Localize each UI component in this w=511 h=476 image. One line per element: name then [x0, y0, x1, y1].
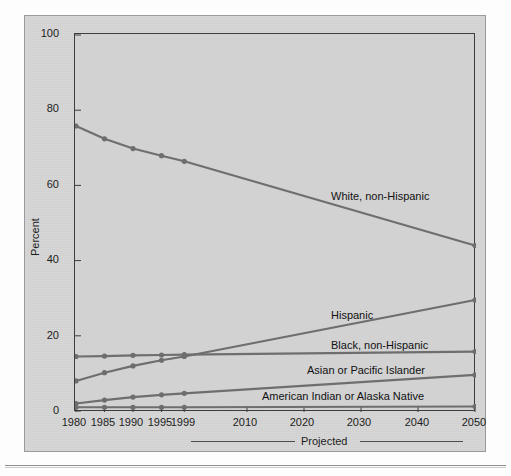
series-label-asian: Asian or Pacific Islander	[307, 364, 425, 376]
chart-svg	[75, 34, 476, 412]
projected-rule-left	[191, 441, 295, 442]
data-point	[472, 349, 476, 354]
data-point	[159, 153, 164, 158]
data-point	[130, 363, 135, 368]
data-point	[75, 354, 79, 359]
data-point	[182, 159, 187, 164]
plot-area: White, non-Hispanic Hispanic Black, non-…	[74, 33, 475, 411]
x-tick-label-2030: 2030	[339, 416, 379, 428]
y-tick-label-40: 40	[31, 253, 59, 265]
data-point	[182, 352, 187, 357]
data-point	[159, 358, 164, 363]
data-point	[75, 405, 79, 410]
y-axis-title: Percent	[29, 218, 41, 256]
data-point	[130, 394, 135, 399]
figure-panel: Percent 100 80 60 40 20 0 White, non-His…	[24, 15, 486, 452]
data-point	[182, 391, 187, 396]
data-point	[472, 243, 476, 248]
footer-divider	[5, 465, 506, 466]
x-tick-label-1999: 1999	[163, 416, 203, 428]
projected-label: Projected	[301, 435, 347, 447]
chart-page: Percent 100 80 60 40 20 0 White, non-His…	[0, 0, 511, 476]
x-tick-label-2020: 2020	[282, 416, 322, 428]
data-point	[472, 297, 476, 302]
data-point	[159, 352, 164, 357]
series-line-0	[76, 126, 475, 246]
y-tick-label-20: 20	[31, 329, 59, 341]
data-point	[182, 405, 187, 410]
data-point	[102, 405, 107, 410]
y-tick-label-60: 60	[31, 178, 59, 190]
series-line-2	[76, 352, 475, 357]
x-tick-label-2050: 2050	[454, 416, 494, 428]
series-label-black: Black, non-Hispanic	[331, 339, 428, 351]
data-point	[102, 354, 107, 359]
data-point	[102, 136, 107, 141]
footer-divider-shadow	[5, 467, 506, 468]
projected-bracket: Projected	[25, 435, 485, 449]
data-point	[159, 405, 164, 410]
data-point	[159, 392, 164, 397]
y-tick-label-100: 100	[31, 27, 59, 39]
series-label-white: White, non-Hispanic	[331, 190, 429, 202]
y-tick-label-0: 0	[31, 404, 59, 416]
data-point	[130, 405, 135, 410]
data-point	[130, 146, 135, 151]
y-tick-label-80: 80	[31, 102, 59, 114]
data-point	[472, 372, 476, 377]
series-label-amerindian: American Indian or Alaska Native	[262, 390, 424, 402]
data-point	[130, 353, 135, 358]
x-tick-label-2040: 2040	[397, 416, 437, 428]
data-point	[102, 370, 107, 375]
data-point	[102, 398, 107, 403]
series-line-4	[76, 406, 475, 407]
x-tick-label-2010: 2010	[225, 416, 265, 428]
series-label-hispanic: Hispanic	[331, 309, 373, 321]
data-point	[75, 378, 79, 383]
data-point	[472, 404, 476, 409]
projected-rule-right	[360, 441, 463, 442]
